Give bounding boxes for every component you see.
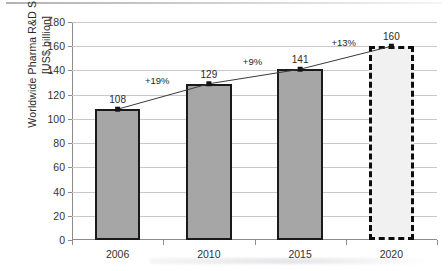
- y-axis-tick: [68, 143, 72, 144]
- y-axis-tick-label: 160: [47, 40, 65, 52]
- scan-artifact-line: [6, 2, 442, 4]
- y-axis-tick: [68, 22, 72, 23]
- y-axis-tick: [68, 95, 72, 96]
- y-axis-tick-label: 40: [53, 186, 65, 198]
- growth-annotation: +13%: [331, 36, 356, 47]
- gridline: [72, 22, 437, 23]
- x-axis-category-label: 2010: [197, 248, 220, 260]
- bar-value-label: 129: [201, 69, 218, 80]
- y-axis-line: [72, 22, 73, 240]
- y-axis-tick: [68, 216, 72, 217]
- y-axis-tick-label: 0: [59, 234, 65, 246]
- y-axis-tick-label: 140: [47, 64, 65, 76]
- bar-value-label: 141: [292, 54, 309, 65]
- x-axis-tick: [437, 240, 438, 245]
- x-axis-tick: [346, 240, 347, 245]
- y-axis-tick-label: 60: [53, 161, 65, 173]
- y-axis-tick-label: 80: [53, 137, 65, 149]
- y-axis-tick: [68, 167, 72, 168]
- bar[interactable]: [186, 84, 232, 240]
- x-axis-tick: [72, 240, 73, 245]
- x-axis-tick: [163, 240, 164, 245]
- y-axis-tick-label: 20: [53, 210, 65, 222]
- bar[interactable]: [277, 69, 323, 240]
- y-axis-tick: [68, 192, 72, 193]
- x-axis-category-label: 2020: [380, 248, 403, 260]
- y-axis-title-line-1: Worldwide Pharma R&D Spending: [25, 0, 39, 128]
- y-axis-tick-label: 180: [47, 16, 65, 28]
- chart-figure: Worldwide Pharma R&D Spending [US$ billi…: [0, 0, 448, 271]
- bar[interactable]: [95, 109, 141, 240]
- y-axis-tick-label: 100: [47, 113, 65, 125]
- y-axis-tick: [68, 119, 72, 120]
- y-axis-tick: [68, 46, 72, 47]
- plot-area: 0204060801001201401601801082006129201014…: [72, 22, 437, 240]
- y-axis-tick: [68, 70, 72, 71]
- bar-value-label: 160: [383, 31, 400, 42]
- bar-value-label: 108: [109, 94, 126, 105]
- growth-annotation: +9%: [243, 55, 262, 66]
- x-axis-tick: [255, 240, 256, 245]
- x-axis-category-label: 2006: [106, 248, 129, 260]
- x-axis-category-label: 2015: [288, 248, 311, 260]
- growth-annotation: +19%: [145, 75, 170, 86]
- bar-forecast[interactable]: [369, 46, 415, 240]
- y-axis-tick-label: 120: [47, 89, 65, 101]
